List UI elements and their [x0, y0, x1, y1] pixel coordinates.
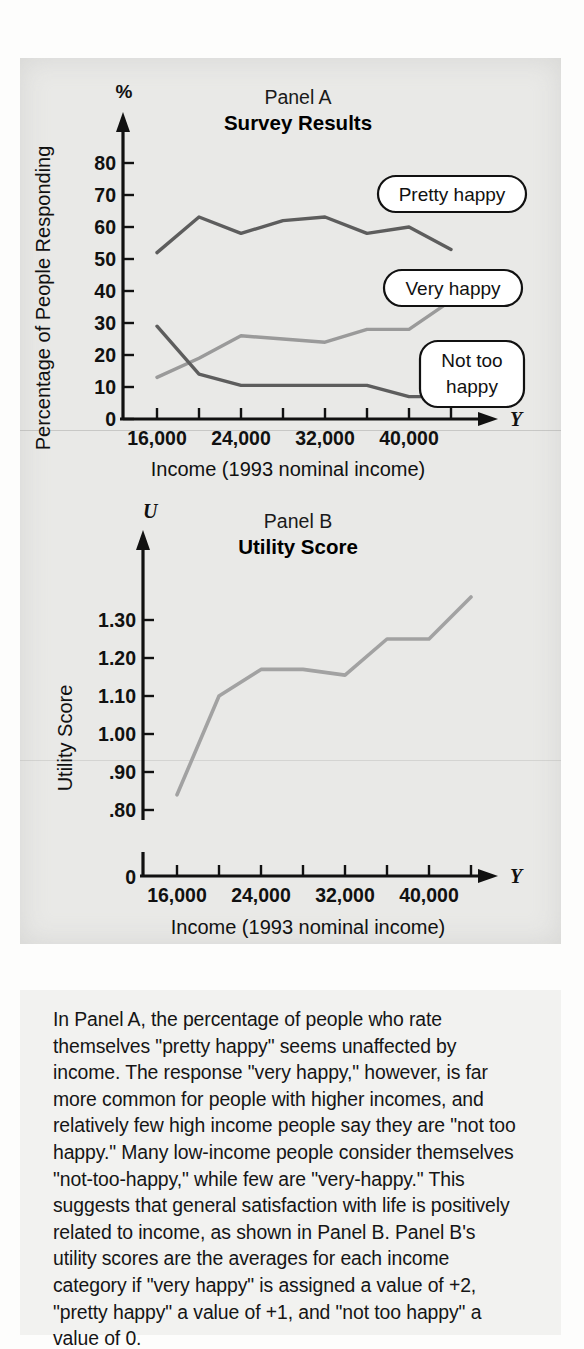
- y-ticklabel-110: 1.10: [98, 685, 136, 707]
- panel-a-x-axis-title: Income (1993 nominal income): [151, 458, 426, 480]
- panel-b-title: Utility Score: [238, 535, 358, 558]
- series-pretty-happy: [157, 217, 451, 253]
- panel-b-x-axis-title: Income (1993 nominal income): [171, 916, 446, 938]
- panel-a-x-axis-arrow: [478, 412, 498, 426]
- y-ticklabel-origin: 0: [125, 866, 136, 888]
- y-ticklabel-70: 70: [94, 184, 116, 206]
- figure-panel: Panel A Survey Results % Percentage of P…: [20, 58, 561, 944]
- series-not-too-happy: [157, 326, 451, 396]
- callout-pretty-happy-label: Pretty happy: [399, 184, 506, 205]
- panel-b-kicker: Panel B: [264, 510, 332, 532]
- x-ticklabel-16000: 16,000: [127, 427, 187, 449]
- panel-a-y-axis-title: Percentage of People Responding: [32, 146, 54, 451]
- y-ticklabel-30: 30: [94, 312, 116, 334]
- panel-a-chart: Panel A Survey Results % Percentage of P…: [20, 58, 561, 488]
- x-ticklabel-16000: 16,000: [147, 884, 207, 906]
- panel-a-y-unit: %: [116, 81, 133, 102]
- panel-b-y-axis-title: Utility Score: [54, 685, 76, 792]
- panel-a-title: Survey Results: [224, 111, 372, 134]
- callout-pretty-happy: Pretty happy: [378, 176, 526, 212]
- y-ticklabel-120: 1.20: [98, 647, 136, 669]
- series-utility-score: [177, 597, 471, 795]
- y-ticklabel-090: .90: [109, 761, 136, 783]
- x-ticklabel-40000: 40,000: [399, 884, 459, 906]
- panel-b-chart: Panel B Utility Score U Utility Score Y: [20, 488, 561, 944]
- panel-b-y-ticks: [143, 620, 154, 810]
- panel-b-x-axis-variable: Y: [510, 865, 524, 887]
- panel-a-x-ticks: [157, 408, 451, 419]
- panel-a: Panel A Survey Results % Percentage of P…: [20, 58, 561, 488]
- panel-a-x-axis-variable: Y: [510, 408, 524, 430]
- caption-paragraph: In Panel A, the percentage of people who…: [53, 1006, 523, 1349]
- x-ticklabel-24000: 24,000: [211, 427, 271, 449]
- panel-b-x-ticklabels: 16,000 24,000 32,000 40,000: [147, 884, 459, 906]
- y-ticklabel-130: 1.30: [98, 609, 136, 631]
- panel-b-x-ticks: [177, 865, 471, 876]
- callout-not-too-happy: Not too happy: [420, 341, 524, 407]
- panel-a-y-axis-arrow: [116, 112, 130, 132]
- panel-b-y-ticklabels: .80 .90 1.00 1.10 1.20 1.30 0: [98, 609, 136, 888]
- panel-a-x-ticklabels: 16,000 24,000 32,000 40,000: [127, 427, 439, 449]
- y-ticklabel-60: 60: [94, 216, 116, 238]
- panel-b-y-axis-arrow: [136, 530, 150, 550]
- callout-not-too-happy-line1: Not too: [441, 350, 502, 371]
- callout-very-happy-label: Very happy: [405, 278, 501, 299]
- y-ticklabel-20: 20: [94, 344, 116, 366]
- y-ticklabel-50: 50: [94, 248, 116, 270]
- panel-a-y-ticks: [123, 163, 134, 419]
- y-ticklabel-0: 0: [105, 408, 116, 430]
- caption-block: In Panel A, the percentage of people who…: [20, 990, 561, 1335]
- panel-b-y-axis-variable: U: [143, 500, 159, 522]
- callout-not-too-happy-line2: happy: [446, 376, 498, 397]
- panel-b-x-axis-arrow: [478, 869, 498, 883]
- x-ticklabel-32000: 32,000: [295, 427, 355, 449]
- y-ticklabel-40: 40: [94, 280, 116, 302]
- panel-a-y-ticklabels: 0 10 20 30 40 50 60 70 80: [94, 152, 116, 430]
- y-ticklabel-80: 80: [94, 152, 116, 174]
- y-ticklabel-10: 10: [94, 376, 116, 398]
- x-ticklabel-40000: 40,000: [379, 427, 439, 449]
- y-ticklabel-100: 1.00: [98, 723, 136, 745]
- x-ticklabel-32000: 32,000: [315, 884, 375, 906]
- callout-very-happy: Very happy: [384, 270, 522, 306]
- panel-b: Panel B Utility Score U Utility Score Y: [20, 488, 561, 944]
- series-very-happy: [157, 301, 451, 378]
- y-ticklabel-080: .80: [109, 799, 136, 821]
- x-ticklabel-24000: 24,000: [231, 884, 291, 906]
- panel-a-kicker: Panel A: [264, 86, 331, 108]
